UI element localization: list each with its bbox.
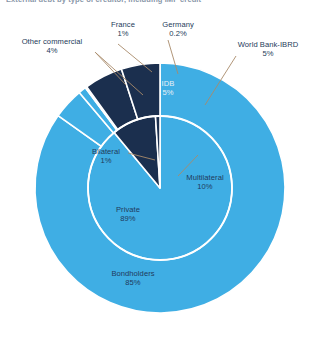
- label-bilateral-value: 1%: [83, 156, 129, 165]
- label-germany-name: Germany: [152, 20, 204, 29]
- label-idb-name: IDB: [150, 79, 186, 88]
- label-other-commercial-value: 4%: [12, 46, 92, 55]
- label-private-value: 89%: [105, 214, 151, 223]
- label-bondholders-name: Bondholders: [102, 269, 164, 278]
- label-world-bank-ibrd-value: 5%: [222, 49, 314, 58]
- label-other-commercial: Other commercial 4%: [12, 37, 92, 56]
- label-germany-value: 0.2%: [152, 29, 204, 38]
- label-france: France 1%: [98, 20, 148, 39]
- label-bondholders-value: 85%: [102, 278, 164, 287]
- chart-page: External debt by type of creditor, inclu…: [0, 0, 320, 338]
- label-germany: Germany 0.2%: [152, 20, 204, 39]
- label-bilateral: Bilateral 1%: [83, 147, 129, 166]
- label-idb-value: 5%: [150, 88, 186, 97]
- label-bondholders: Bondholders 85%: [102, 269, 164, 288]
- label-world-bank-ibrd-name: World Bank-IBRD: [222, 40, 314, 49]
- label-idb: IDB 5%: [150, 79, 186, 98]
- label-private-name: Private: [105, 205, 151, 214]
- label-world-bank-ibrd: World Bank-IBRD 5%: [222, 40, 314, 59]
- label-france-value: 1%: [98, 29, 148, 38]
- label-bilateral-name: Bilateral: [83, 147, 129, 156]
- label-multilateral: Multilateral 10%: [174, 173, 236, 192]
- label-multilateral-value: 10%: [174, 182, 236, 191]
- label-multilateral-name: Multilateral: [174, 173, 236, 182]
- label-france-name: France: [98, 20, 148, 29]
- label-other-commercial-name: Other commercial: [12, 37, 92, 46]
- label-private: Private 89%: [105, 205, 151, 224]
